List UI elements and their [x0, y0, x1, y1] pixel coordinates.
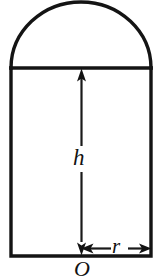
radius-label: r — [112, 236, 120, 257]
figure-canvas — [0, 0, 161, 278]
origin-point-label: O — [74, 258, 90, 278]
semicircular-dome-outline — [11, 2, 151, 68]
geometry-figure: h r O — [0, 0, 161, 278]
height-label: h — [73, 146, 85, 169]
